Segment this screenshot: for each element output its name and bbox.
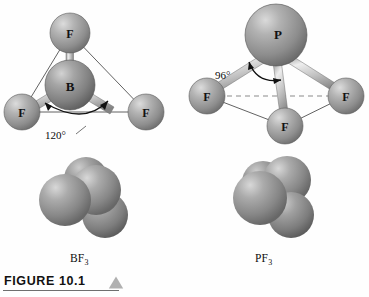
- pf3-angle-label: 96°: [215, 69, 230, 81]
- figure-caption-bar: FIGURE 10.1: [0, 274, 369, 297]
- atom-label-f-top: F: [66, 27, 73, 41]
- pf3-formula-text: PF: [255, 252, 268, 264]
- atom-label-b: B: [66, 79, 75, 94]
- bf3-formula-text: BF: [70, 252, 84, 264]
- bf3-atom-f-top: F: [50, 13, 90, 53]
- atom-label-f-left: F: [18, 106, 25, 120]
- pf3-formula-subscript: 3: [268, 258, 272, 267]
- pf3-atom-f-right: F: [328, 78, 364, 114]
- pf3-atom-p-center: P: [245, 4, 307, 66]
- caption-underline-rule: [3, 290, 119, 291]
- bf3-formula-subscript: 3: [84, 258, 88, 267]
- atom-label-f-front: F: [281, 120, 288, 134]
- pf3-spacefill-svg: [205, 160, 365, 245]
- spacefill-sphere-front: [39, 174, 91, 226]
- figure-caption-label: FIGURE 10.1: [4, 274, 86, 288]
- atom-label-f-right: F: [342, 90, 349, 104]
- bf3-atom-f-right: F: [128, 94, 164, 130]
- bf3-atom-b-center: B: [45, 60, 95, 110]
- atom-label-p: P: [274, 27, 282, 42]
- figure-container: F B F F 120°: [0, 0, 369, 297]
- bf3-formula-label: BF3: [70, 252, 89, 264]
- bf3-diagram-svg: F B F F 120°: [0, 0, 185, 150]
- pf3-atom-f-left: F: [189, 78, 225, 114]
- bf3-spacefill-svg: [20, 160, 180, 245]
- bf3-atom-f-left: F: [4, 94, 40, 130]
- atom-label-f-left: F: [203, 90, 210, 104]
- pf3-atom-f-front: F: [267, 108, 303, 144]
- bf3-space-filling-model: [20, 160, 180, 245]
- triangle-up-icon: [108, 276, 124, 289]
- pf3-formula-label: PF3: [255, 252, 272, 264]
- pf3-ball-and-stick-model: F F F P 96°: [185, 0, 369, 150]
- spacefill-sphere-front: [233, 171, 287, 225]
- pf3-space-filling-model: [205, 160, 365, 245]
- pf3-diagram-svg: F F F P 96°: [185, 0, 369, 150]
- atom-label-f-right: F: [142, 106, 149, 120]
- bf3-angle-label: 120°: [45, 129, 66, 141]
- bf3-ball-and-stick-model: F B F F 120°: [0, 0, 185, 150]
